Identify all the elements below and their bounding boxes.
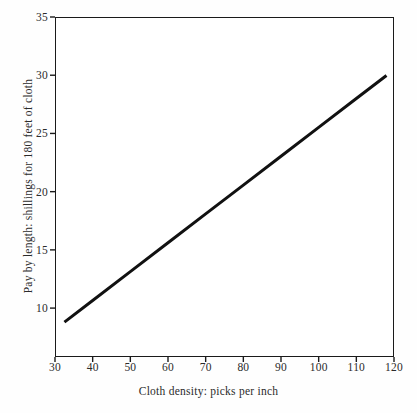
- x-tick-label-100: 100: [310, 361, 328, 373]
- x-tick-label-80: 80: [237, 361, 249, 373]
- x-tick-label-30: 30: [49, 361, 61, 373]
- chart-page: 30405060708090100110120 101520253035 Clo…: [0, 0, 417, 413]
- x-tick-label-120: 120: [385, 361, 403, 373]
- x-tick-label-60: 60: [162, 361, 174, 373]
- plot-area: [55, 17, 394, 357]
- x-tick-label-110: 110: [348, 361, 365, 373]
- y-axis-title: Pay by length: shillings for 180 feet of…: [22, 66, 34, 306]
- x-tick-label-70: 70: [200, 361, 212, 373]
- x-tick-label-40: 40: [87, 361, 99, 373]
- y-tick-label-35: 35: [24, 11, 48, 23]
- x-tick-label-50: 50: [124, 361, 136, 373]
- x-axis-title: Cloth density: picks per inch: [0, 385, 417, 397]
- x-tick-label-90: 90: [275, 361, 287, 373]
- x-axis-ticks: [55, 357, 394, 362]
